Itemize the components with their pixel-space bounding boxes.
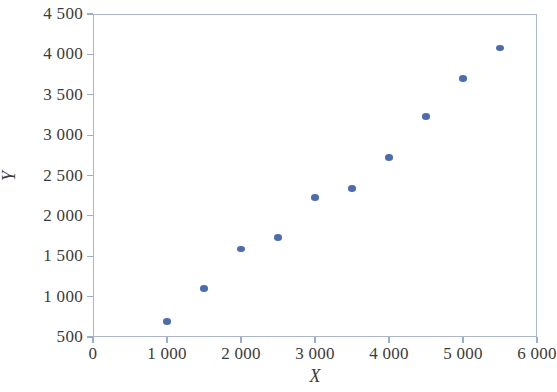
x-tick-label: 1 000 bbox=[147, 344, 187, 364]
x-tick-label: 0 bbox=[89, 344, 98, 364]
y-tick-mark bbox=[87, 215, 93, 216]
data-point bbox=[348, 185, 356, 192]
x-tick-mark bbox=[314, 337, 315, 343]
x-tick-label: 5 000 bbox=[443, 344, 483, 364]
x-tick-label: 4 000 bbox=[369, 344, 409, 364]
x-tick-mark bbox=[462, 337, 463, 343]
data-point bbox=[496, 45, 504, 52]
data-point bbox=[200, 285, 208, 292]
x-tick-mark bbox=[388, 337, 389, 343]
x-axis-title: X bbox=[310, 366, 321, 387]
y-tick-label: 3 000 bbox=[43, 125, 83, 145]
x-tick-label: 3 000 bbox=[295, 344, 335, 364]
y-tick-mark bbox=[87, 54, 93, 55]
y-tick-label: 1 500 bbox=[43, 246, 83, 266]
y-tick-mark bbox=[87, 13, 93, 14]
y-tick-label: 4 000 bbox=[43, 44, 83, 64]
x-tick-label: 2 000 bbox=[221, 344, 261, 364]
y-tick-label: 2 000 bbox=[43, 206, 83, 226]
plot-area bbox=[93, 14, 537, 337]
y-tick-label: 1 000 bbox=[43, 287, 83, 307]
y-tick-mark bbox=[87, 175, 93, 176]
y-tick-mark bbox=[87, 256, 93, 257]
data-point bbox=[163, 318, 171, 325]
x-tick-label: 6 000 bbox=[517, 344, 557, 364]
y-tick-mark bbox=[87, 296, 93, 297]
data-point bbox=[422, 113, 430, 120]
data-point bbox=[459, 75, 467, 82]
x-tick-mark bbox=[92, 337, 93, 343]
y-tick-label: 3 500 bbox=[43, 85, 83, 105]
y-tick-mark bbox=[87, 336, 93, 337]
x-tick-mark bbox=[240, 337, 241, 343]
data-point bbox=[311, 194, 319, 201]
y-tick-mark bbox=[87, 94, 93, 95]
x-tick-mark bbox=[536, 337, 537, 343]
y-tick-label: 500 bbox=[57, 327, 83, 347]
y-tick-label: 2 500 bbox=[43, 166, 83, 186]
data-point bbox=[274, 234, 282, 241]
y-tick-label: 4 500 bbox=[43, 4, 83, 24]
y-axis-title: Y bbox=[0, 171, 20, 181]
data-point bbox=[385, 154, 393, 161]
y-tick-mark bbox=[87, 135, 93, 136]
x-tick-mark bbox=[166, 337, 167, 343]
